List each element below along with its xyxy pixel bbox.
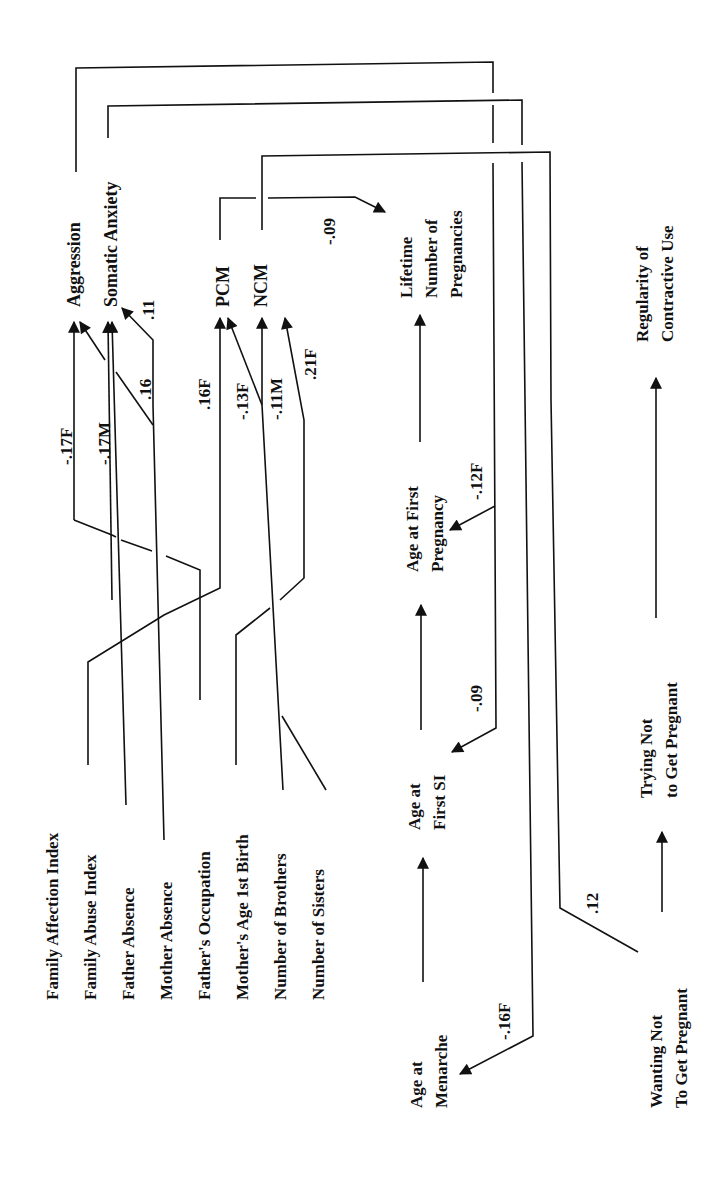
menarche-line-2: Menarche — [432, 1034, 451, 1108]
label-mothers-age-1st-birth: Mother's Age 1st Birth — [233, 834, 252, 1000]
label-aggression: Aggression — [64, 222, 84, 307]
path-diagram: Family Affection Index Family Abuse Inde… — [0, 0, 718, 1202]
label-number-of-sisters: Number of Sisters — [309, 869, 328, 1000]
path-pcm-to-lifetime — [220, 198, 256, 240]
label-ncm: NCM — [251, 264, 271, 307]
path-abuse-lower-2 — [121, 540, 152, 551]
lifetime-line-1: Lifetime — [397, 236, 416, 298]
afsi-line-2: First SI — [430, 774, 449, 830]
wanting-line-2: To Get Pregnant — [672, 988, 691, 1108]
label-pcm: PCM — [213, 266, 233, 307]
path-sisters — [282, 716, 326, 790]
label-somatic-anxiety: Somatic Anxiety — [101, 182, 121, 308]
label-lifetime-pregnancies: Lifetime Number of Pregnancies — [397, 210, 466, 298]
afp-line-1: Age at First — [403, 486, 422, 572]
menarche-line-1: Age at — [407, 1061, 426, 1108]
coef-father-absence-aggression: -.17M — [95, 422, 114, 465]
label-wanting-not-pregnant: Wanting Not To Get Pregnant — [647, 988, 691, 1108]
label-regularity-contraceptive: Regularity of Contractive Use — [633, 225, 677, 342]
label-mother-absence: Mother Absence — [157, 881, 176, 1000]
coef-pcm-lifetime: -.09 — [320, 218, 339, 245]
trying-line-2: to Get Pregnant — [662, 682, 681, 798]
label-family-affection-index: Family Affection Index — [43, 832, 62, 1000]
coef-affection-pcm: .16F — [195, 378, 214, 410]
coef-aggression-first-si: -.09 — [467, 685, 486, 712]
coef-brothers-pcm: -.13F — [233, 383, 252, 420]
outcome-labels: Lifetime Number of Pregnancies Age at Fi… — [397, 210, 691, 1108]
path-aggression-to-afp — [450, 506, 495, 530]
regularity-line-1: Regularity of — [633, 246, 652, 342]
path-pcm-to-lifetime-2 — [268, 197, 385, 212]
coef-brothers-ncm: -.11M — [267, 378, 286, 420]
lifetime-line-3: Pregnancies — [447, 210, 466, 298]
path-father-absence-diag — [80, 322, 105, 360]
wanting-line-1: Wanting Not — [647, 1015, 666, 1108]
coef-aggression-afp: -.12F — [467, 463, 486, 500]
label-father-absence: Father Absence — [119, 887, 138, 1000]
path-father-absence-to-aggression — [112, 322, 126, 805]
path-somatic-connector — [108, 100, 522, 145]
afsi-line-1: Age at — [405, 783, 424, 830]
mediator-labels: Aggression Somatic Anxiety PCM NCM — [64, 182, 271, 308]
coefficients: -.17F -.17M .16 .11 .16F -.13F -.11M .21… — [57, 218, 602, 1040]
coef-mothers-age-ncm: .21F — [301, 348, 320, 380]
coef-abuse-aggression: -.17F — [57, 428, 76, 465]
coef-somatic-menarche: -.16F — [495, 1003, 514, 1040]
label-age-first-si: Age at First SI — [405, 774, 449, 830]
label-age-at-menarche: Age at Menarche — [407, 1034, 451, 1108]
label-family-abuse-index: Family Abuse Index — [81, 854, 100, 1000]
label-number-of-brothers: Number of Brothers — [271, 853, 290, 1000]
coef-mother-absence-somatic-16: .16 — [136, 379, 155, 400]
path-abuse-lower-3 — [166, 556, 200, 700]
label-trying-not-pregnant: Trying Not to Get Pregnant — [637, 682, 681, 798]
outcome-chain — [420, 315, 662, 982]
path-somatic-down — [460, 162, 533, 1074]
lifetime-line-2: Number of — [422, 219, 441, 298]
trying-line-1: Trying Not — [637, 718, 656, 798]
path-mothers-age-to-ncm — [236, 608, 270, 765]
coef-ncm-wanting: .12 — [583, 893, 602, 914]
coef-mother-absence-somatic-11: .11 — [139, 300, 158, 320]
path-abuse-lower — [74, 520, 116, 537]
label-age-first-pregnancy: Age at First Pregnancy — [403, 482, 447, 572]
regularity-line-2: Contractive Use — [658, 225, 677, 342]
afp-line-2: Pregnancy — [428, 494, 447, 572]
label-fathers-occupation: Father's Occupation — [195, 851, 214, 1000]
exogenous-labels: Family Affection Index Family Abuse Inde… — [43, 832, 328, 1000]
